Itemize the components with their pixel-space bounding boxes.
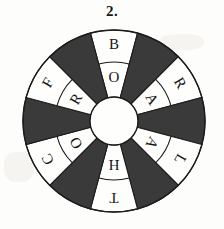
- puzzle-page: 2. BORALATHCOFR: [0, 0, 224, 229]
- wheel-letter-inner: O: [109, 69, 120, 85]
- word-wheel-svg[interactable]: BORALATHCOFR: [0, 0, 224, 229]
- wheel-hub[interactable]: [90, 97, 138, 145]
- wheel-letter-outer: B: [109, 36, 119, 52]
- word-wheel[interactable]: BORALATHCOFR: [0, 0, 224, 229]
- wheel-letter-inner: H: [108, 157, 119, 173]
- wheel-letter-outer: T: [109, 190, 118, 206]
